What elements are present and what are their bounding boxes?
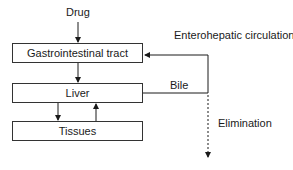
gi-tract-box: Gastrointestinal tract bbox=[12, 43, 143, 63]
tissues-box: Tissues bbox=[12, 121, 143, 141]
enterohepatic-label: Enterohepatic circulation bbox=[174, 29, 293, 41]
liver-label: Liver bbox=[66, 87, 90, 99]
liver-box: Liver bbox=[12, 83, 143, 103]
tissues-label: Tissues bbox=[59, 125, 97, 137]
elimination-label: Elimination bbox=[218, 117, 272, 129]
bile-label: Bile bbox=[170, 79, 188, 91]
drug-label: Drug bbox=[66, 6, 90, 18]
gi-tract-label: Gastrointestinal tract bbox=[27, 47, 128, 59]
